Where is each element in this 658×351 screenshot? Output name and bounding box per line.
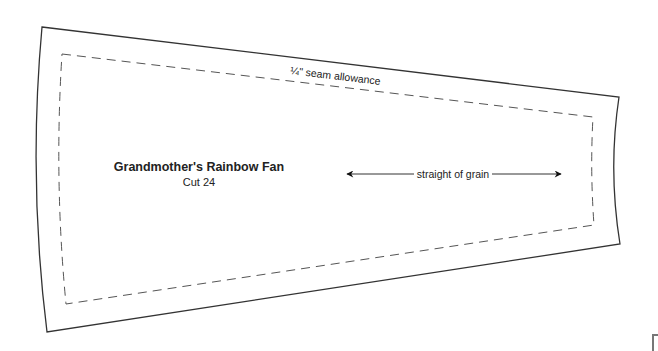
- pattern-title: Grandmother's Rainbow Fan: [114, 160, 284, 174]
- cut-instruction: Cut 24: [183, 176, 215, 188]
- page-edge-mark: [652, 334, 658, 351]
- seam-allowance-label: ¼" seam allowance: [290, 64, 382, 87]
- quilt-template-diagram: ¼" seam allowance Grandmother's Rainbow …: [0, 0, 658, 351]
- seam-allowance-line: [59, 54, 594, 304]
- grain-direction-label: straight of grain: [417, 168, 490, 180]
